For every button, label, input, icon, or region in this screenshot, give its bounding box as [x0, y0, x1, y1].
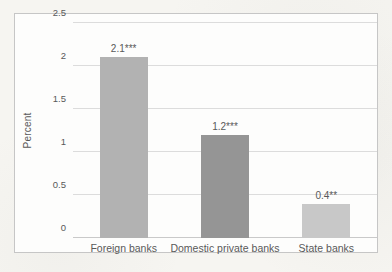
data-label-3: 0.4** — [315, 190, 337, 201]
y-tick-label-0.5: 0.5 — [53, 179, 66, 190]
plot-area: 00.511.522.5Foreign banks2.1***Domestic … — [73, 23, 377, 238]
bar-state-banks — [302, 204, 350, 238]
y-tick-label-1: 1 — [61, 136, 66, 147]
x-axis-label-1: Foreign banks — [90, 242, 157, 254]
bar-slot-1: 2.1*** — [73, 23, 174, 238]
bar-slot-2: 1.2*** — [174, 23, 275, 238]
x-axis-label-3: State banks — [299, 242, 354, 254]
y-tick-label-2: 2 — [61, 50, 66, 61]
x-axis-label-2: Domestic private banks — [170, 242, 279, 254]
y-axis-title: Percent — [21, 23, 35, 238]
bar-foreign-banks — [100, 57, 148, 238]
y-tick-label-0: 0 — [61, 222, 66, 233]
y-tick-label-1.5: 1.5 — [53, 93, 66, 104]
y-axis-title-text: Percent — [23, 113, 34, 149]
bar-slot-3: 0.4** — [276, 23, 377, 238]
bar-domestic-private-banks — [201, 135, 249, 238]
data-label-1: 2.1*** — [111, 43, 137, 54]
bar-chart: Percent 00.511.522.5Foreign banks2.1***D… — [14, 13, 378, 253]
y-tick-label-2.5: 2.5 — [53, 7, 66, 18]
data-label-2: 1.2*** — [212, 121, 238, 132]
